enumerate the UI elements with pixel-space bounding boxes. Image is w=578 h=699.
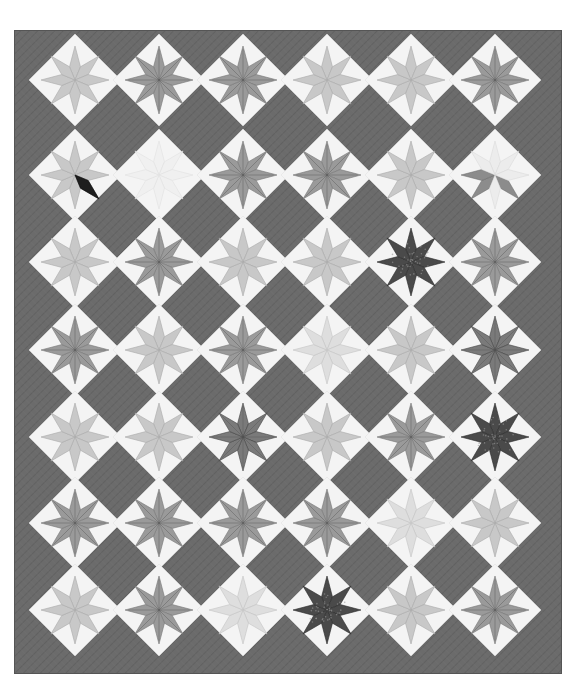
quilt-illustration xyxy=(0,0,578,699)
quilt-photo xyxy=(0,0,578,699)
